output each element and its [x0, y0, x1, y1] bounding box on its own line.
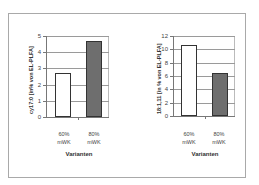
y-tick-label: 5: [27, 33, 41, 39]
plot-area: 024681012: [173, 36, 235, 117]
y-axis-label: cy17:0 [in% von EL-PLFA]: [28, 46, 34, 114]
gridline: [174, 36, 235, 37]
y-tick-label: 10: [154, 46, 168, 52]
y-tick: [170, 103, 174, 104]
plot-area: 012345: [46, 36, 109, 118]
y-tick-label: 2: [154, 100, 168, 106]
y-tick-label: 3: [27, 65, 41, 71]
y-tick: [170, 116, 174, 117]
y-tick-label: 1: [27, 98, 41, 104]
bar-60-mwk: [181, 45, 197, 116]
y-tick-label: 4: [27, 49, 41, 55]
bar-60-mwk: [55, 73, 71, 117]
y-tick: [170, 49, 174, 50]
y-tick-label: 4: [154, 86, 168, 92]
y-tick: [43, 68, 47, 69]
y-tick-label: 0: [154, 113, 168, 119]
chart-left-panel: cy17:0 [in% von EL-PLFA] 012345 60% mWK …: [9, 14, 129, 177]
figure-frame: cy17:0 [in% von EL-PLFA] 012345 60% mWK …: [8, 13, 246, 178]
y-tick-label: 2: [27, 82, 41, 88]
y-tick-label: 6: [154, 73, 168, 79]
category-label: 60% mWK: [174, 130, 204, 146]
y-tick: [170, 76, 174, 77]
y-tick: [43, 52, 47, 53]
y-tick: [43, 117, 47, 118]
x-tick: [205, 116, 206, 119]
category-label: 60% mWK: [49, 130, 79, 146]
y-tick: [170, 36, 174, 37]
y-tick: [43, 85, 47, 86]
y-tick-label: 0: [27, 114, 41, 120]
chart-right-panel: 18:1,11 [in % von EL-PLFA] 024681012 60%…: [129, 14, 246, 177]
bar-80-mwk: [86, 41, 102, 117]
y-tick: [170, 63, 174, 64]
y-tick-label: 12: [154, 33, 168, 39]
x-axis-label: Varianten: [175, 151, 235, 157]
category-label: 80% mWK: [204, 130, 234, 146]
x-tick: [78, 117, 79, 120]
category-label: 80% mWK: [79, 130, 109, 146]
bar-80-mwk: [212, 73, 228, 116]
y-tick: [170, 89, 174, 90]
y-tick: [43, 101, 47, 102]
x-axis-label: Varianten: [49, 151, 109, 157]
gridline: [47, 36, 109, 37]
y-tick: [43, 36, 47, 37]
y-tick-label: 8: [154, 60, 168, 66]
